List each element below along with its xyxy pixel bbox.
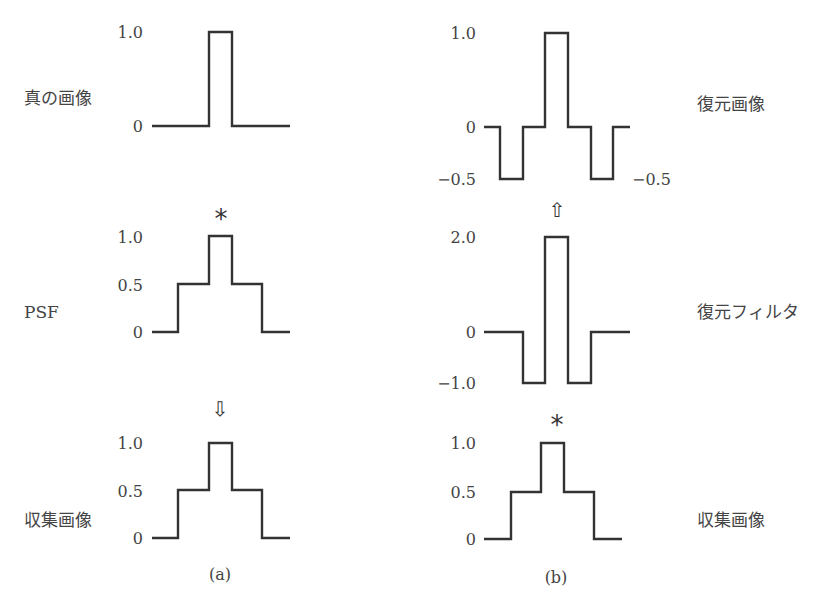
tick-label: −0.5 [632,170,671,189]
plot-restoration-filter: 2.00−1.0復元フィルタ [437,228,799,393]
tick-label: 0 [466,323,476,342]
plot-label: 復元画像 [697,94,765,114]
tick-label: 0 [133,529,143,548]
signal-line [484,237,630,383]
plot-label: PSF [24,302,59,322]
signal-line [152,443,290,538]
plot-label: 収集画像 [24,510,92,530]
plot-psf: 1.00.50PSF [24,228,290,342]
plot-observed-image-a: 1.00.50収集画像 [24,434,290,548]
panel-a: 1.00真の画像1.00.50PSF1.00.50収集画像*⇩(a) [24,23,290,584]
plot-label: 真の画像 [24,88,92,108]
tick-label: 0 [466,530,476,549]
signal-line [484,33,630,179]
convolution-symbol: * [551,410,564,440]
convolution-symbol: * [215,204,228,234]
signal-line [484,443,622,539]
tick-label: 0 [466,118,476,137]
arrow-up-icon: ⇧ [549,198,566,222]
signal-line [152,236,290,332]
tick-label: 2.0 [451,228,476,247]
tick-label: 0.5 [118,482,143,501]
signal-line [152,32,290,126]
deconvolution-diagram: 1.00真の画像1.00.50PSF1.00.50収集画像*⇩(a)1.00−0… [0,0,824,599]
panel-caption: (b) [545,568,568,587]
tick-label: 1.0 [451,24,476,43]
tick-label: −1.0 [437,374,476,393]
plot-restored-image: 1.00−0.5−0.5復元画像 [437,24,765,189]
tick-label: 1.0 [118,23,143,42]
tick-label: 0 [133,117,143,136]
tick-label: 0.5 [118,276,143,295]
plot-observed-image-b: 1.00.50収集画像 [451,434,765,549]
panel-caption: (a) [209,565,231,584]
arrow-down-icon: ⇩ [212,397,229,421]
tick-label: 1.0 [118,434,143,453]
tick-label: −0.5 [437,170,476,189]
plot-label: 復元フィルタ [697,302,799,322]
tick-label: 0 [133,323,143,342]
panel-b: 1.00−0.5−0.5復元画像2.00−1.0復元フィルタ1.00.50収集画… [437,24,799,587]
plot-true-image: 1.00真の画像 [24,23,290,136]
tick-label: 1.0 [451,434,476,453]
plot-label: 収集画像 [697,510,765,530]
tick-label: 0.5 [451,483,476,502]
tick-label: 1.0 [118,228,143,247]
